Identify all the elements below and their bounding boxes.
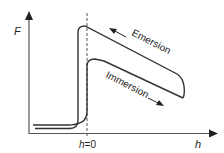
y-axis-arrowhead-icon	[25, 11, 33, 20]
y-axis-label: F	[14, 25, 22, 37]
origin-eq: =0	[85, 139, 97, 150]
emersion-label: Emersion	[130, 27, 173, 56]
immersion-label: Immersion	[104, 69, 151, 100]
x-axis-arrowhead-icon	[209, 130, 218, 138]
force-displacement-diagram: F h h=0 Emersion Immersion	[0, 0, 224, 153]
x-axis-label: h	[195, 138, 201, 150]
immersion-curve	[33, 59, 183, 125]
origin-marker-label: h=0	[79, 139, 96, 150]
